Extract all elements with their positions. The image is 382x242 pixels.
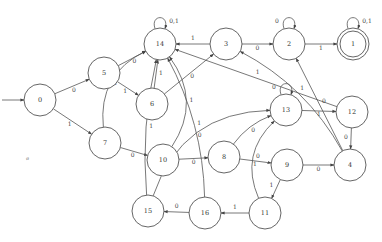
edge-label: 1 [233,203,237,210]
edge-label: 1 [189,96,193,103]
edge-label: 0 [344,133,348,140]
edge-9-to-4: 0 [303,165,334,172]
edge-label: 0 [256,152,260,159]
state-node-8: 8 [208,141,240,173]
edge-15-to-14: 1 [145,60,156,195]
edge-8-to-13: 0 [233,116,271,144]
edges-layer: 0101100,1101010010,10110010101010110 [2,17,372,214]
edge-label: 1 [149,122,153,129]
edge-label: 0 [251,126,255,133]
edge-0-to-7: 1 [53,109,91,134]
edge-label: 1 [270,181,274,188]
state-label: 4 [348,161,352,169]
edge-label: 1 [191,34,195,41]
edge-2-to-2: 0 [275,17,295,29]
edge-3-to-14: 1 [176,34,210,45]
edge-label: 0 [275,17,279,24]
state-node-16: 16 [189,197,221,229]
nodes-layer: 057146103211312894151611 [24,28,369,229]
state-label: 1 [351,40,355,48]
state-label: 7 [103,139,107,147]
edge-label: 0 [198,131,202,138]
edge-11-to-16: 1 [221,203,249,214]
edge-5-to-6: 1 [117,82,138,96]
edge-2-to-1: 1 [305,44,337,51]
edge-8-to-9: 1 [240,159,271,167]
state-label: 13 [282,106,290,114]
edge-label: 0 [131,151,135,158]
state-node-12: 12 [336,96,368,128]
state-label: 15 [144,207,152,215]
edge-label: 1 [300,84,304,91]
state-label: 10 [159,156,167,164]
edge-1-to-1: 0,1 [347,17,372,29]
edge-16-to-15: 0 [164,202,189,213]
state-label: 0 [38,96,42,104]
state-node-7: 7 [89,127,121,159]
state-label: 9 [285,161,289,169]
edge-10-to-8: 0 [179,158,208,165]
edge-label: 1 [123,87,127,94]
edge-label: 1 [159,69,163,76]
state-label: 3 [224,40,228,48]
state-node-10: 10 [147,144,179,176]
edge-label: 1 [253,160,257,167]
state-node-2: 2 [273,28,305,60]
edge-12-to-4: 0 [344,128,351,149]
state-node-9: 9 [271,149,303,181]
edge-label: 0 [190,72,194,79]
edge-label: 0,1 [362,17,372,24]
edge-label: 0 [322,97,326,104]
state-node-15: 15 [132,195,164,227]
edge-12-to-14: 1 [175,49,337,106]
edge-10-to-14: 1 [170,57,194,147]
state-node-4: 4 [334,149,366,181]
state-node-0: 0 [24,84,56,116]
state-label: 8 [222,153,226,161]
edge-label: 1 [68,120,72,127]
state-node-13: 13 [270,94,302,126]
edge-label: 0 [72,86,76,93]
stray-mark: ø [26,155,29,161]
state-label: 5 [102,69,106,77]
state-node-3: 3 [210,28,242,60]
edge-label: 0 [256,44,260,51]
edge-label: 1 [319,44,323,51]
edge-label: 0 [317,165,321,172]
state-label: 12 [348,108,356,116]
state-label: 11 [261,209,269,217]
edge-label: 0 [192,158,196,165]
edge-9-to-11: 1 [270,180,281,199]
state-node-6: 6 [136,88,168,120]
state-label: 6 [150,100,154,108]
edge-label: 0 [175,202,179,209]
edge-label: 1 [197,119,201,126]
state-node-5: 5 [88,57,120,89]
state-label: 2 [287,40,291,48]
edge-16-to-14: 1 [168,58,205,197]
edge-3-to-2: 0 [242,44,273,51]
state-label: 14 [156,40,164,48]
state-label: 16 [201,209,209,217]
state-node-14: 14 [144,28,176,60]
state-diagram: 0101100,1101010010,10110010101010110 057… [0,0,382,242]
edge-0-to-5: 0 [55,79,90,94]
edge-7-to-10: 0 [120,148,147,158]
state-node-11: 11 [249,197,281,229]
edge-label: 1 [256,68,260,75]
state-node-1: 1 [337,28,369,60]
edge-4-to-2: 0 [296,58,343,150]
edge-label: 0,1 [169,17,179,24]
edge-14-to-14: 0,1 [154,17,179,29]
